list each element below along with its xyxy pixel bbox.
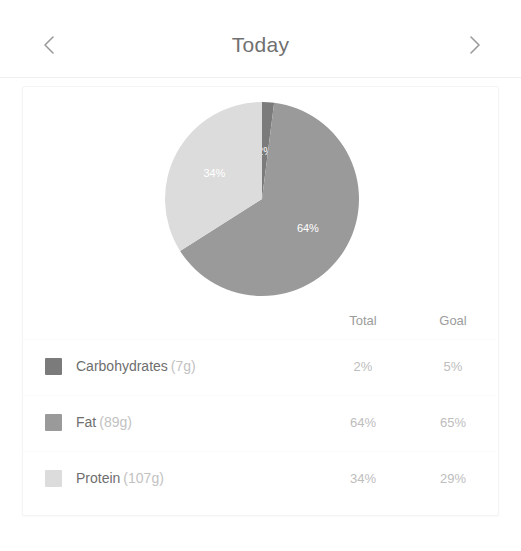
macro-name: Protein — [76, 470, 120, 486]
legend-label-carbohydrates: Carbohydrates(7g) — [76, 358, 196, 374]
legend-label-fat: Fat(89g) — [76, 414, 132, 430]
macro-grams: (7g) — [171, 358, 196, 374]
legend-swatch-fat — [45, 414, 62, 431]
pie-label-fat: 64% — [296, 222, 318, 234]
macro-grams: (107g) — [123, 470, 163, 486]
header-bar: Today — [0, 0, 521, 78]
legend-label-protein: Protein(107g) — [76, 470, 164, 486]
table-row[interactable]: Carbohydrates(7g) 2% 5% — [23, 339, 500, 395]
value-total-carbohydrates: 2% — [328, 359, 398, 374]
column-header-total: Total — [328, 313, 398, 328]
value-total-fat: 64% — [328, 415, 398, 430]
table-row[interactable]: Protein(107g) 34% 29% — [23, 451, 500, 507]
table-row[interactable]: Fat(89g) 64% 65% — [23, 395, 500, 451]
macro-legend-table: Total Goal Carbohydrates(7g) 2% 5% Fat(8… — [23, 305, 500, 507]
chevron-right-icon[interactable] — [457, 28, 491, 62]
macros-card: 2%64%34% Total Goal Carbohydrates(7g) 2%… — [22, 86, 499, 516]
value-goal-fat: 65% — [418, 415, 488, 430]
legend-swatch-protein — [45, 470, 62, 487]
value-goal-protein: 29% — [418, 471, 488, 486]
column-header-goal: Goal — [418, 313, 488, 328]
page-title: Today — [0, 33, 521, 57]
nutrition-summary-screen: Today 2%64%34% Total Goal Carbohydrates(… — [0, 0, 521, 551]
legend-swatch-carbohydrates — [45, 358, 62, 375]
pie-label-protein: 34% — [203, 167, 225, 179]
macro-name: Carbohydrates — [76, 358, 168, 374]
pie-chart-svg: 2%64%34% — [162, 99, 362, 299]
value-total-protein: 34% — [328, 471, 398, 486]
macro-name: Fat — [76, 414, 96, 430]
value-goal-carbohydrates: 5% — [418, 359, 488, 374]
macro-grams: (89g) — [99, 414, 132, 430]
legend-header-row: Total Goal — [23, 305, 500, 339]
macro-pie-chart: 2%64%34% — [23, 99, 500, 304]
